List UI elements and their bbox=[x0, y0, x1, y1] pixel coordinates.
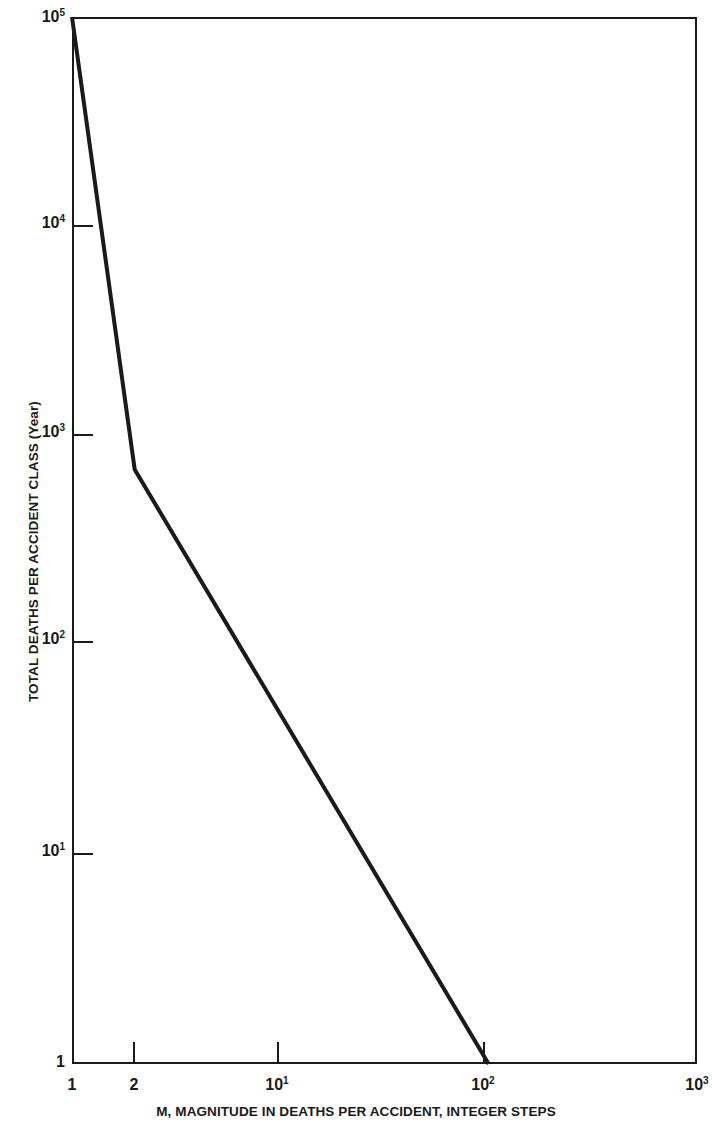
y-tick-label-base: 10 bbox=[42, 8, 60, 25]
y-tick-label-base: 10 bbox=[42, 423, 60, 440]
x-tick-label-base: 1 bbox=[68, 1076, 77, 1093]
y-tick-label-exponent: 4 bbox=[59, 213, 65, 224]
y-tick-label-exponent: 3 bbox=[59, 422, 65, 433]
data-series-line bbox=[72, 17, 489, 1064]
y-tick-label-10: 101 bbox=[3, 842, 65, 860]
y-tick-label-1: 1 bbox=[3, 1053, 65, 1071]
data-line-layer bbox=[72, 17, 697, 1064]
y-tick-label-base: 10 bbox=[42, 630, 60, 647]
x-tick-label-exponent: 3 bbox=[703, 1075, 709, 1086]
y-tick-mark bbox=[72, 434, 93, 436]
y-tick-label-exponent: 1 bbox=[59, 841, 65, 852]
x-tick-label-1000: 103 bbox=[657, 1076, 712, 1094]
x-tick-label-base: 10 bbox=[265, 1076, 283, 1093]
x-tick-label-exponent: 1 bbox=[283, 1075, 289, 1086]
x-tick-label-base: 10 bbox=[471, 1076, 489, 1093]
x-tick-mark bbox=[483, 1042, 485, 1064]
x-tick-label-exponent: 2 bbox=[489, 1075, 495, 1086]
y-tick-mark bbox=[72, 641, 93, 643]
x-tick-mark bbox=[277, 1042, 279, 1064]
x-tick-label-2: 2 bbox=[94, 1076, 174, 1094]
y-axis-title: TOTAL DEATHS PER ACCIDENT CLASS (Year) bbox=[26, 401, 41, 702]
x-tick-label-100: 102 bbox=[443, 1076, 523, 1094]
y-tick-label-exponent: 5 bbox=[59, 7, 65, 18]
x-tick-label-base: 2 bbox=[130, 1076, 139, 1093]
chart-figure: 105 104 103 102 101 1 1 2 101 102 103 M,… bbox=[0, 0, 712, 1129]
y-tick-label-base: 1 bbox=[56, 1053, 65, 1070]
y-tick-mark bbox=[72, 853, 93, 855]
x-axis-title: M, MAGNITUDE IN DEATHS PER ACCIDENT, INT… bbox=[0, 1104, 712, 1119]
x-tick-label-10: 101 bbox=[237, 1076, 317, 1094]
y-tick-mark bbox=[72, 225, 93, 227]
y-tick-label-exponent: 2 bbox=[59, 629, 65, 640]
x-tick-label-base: 10 bbox=[685, 1076, 703, 1093]
x-tick-mark bbox=[133, 1042, 135, 1064]
y-tick-label-100000: 105 bbox=[3, 8, 65, 26]
y-tick-label-base: 10 bbox=[42, 214, 60, 231]
y-tick-label-10000: 104 bbox=[3, 214, 65, 232]
y-tick-label-base: 10 bbox=[42, 842, 60, 859]
